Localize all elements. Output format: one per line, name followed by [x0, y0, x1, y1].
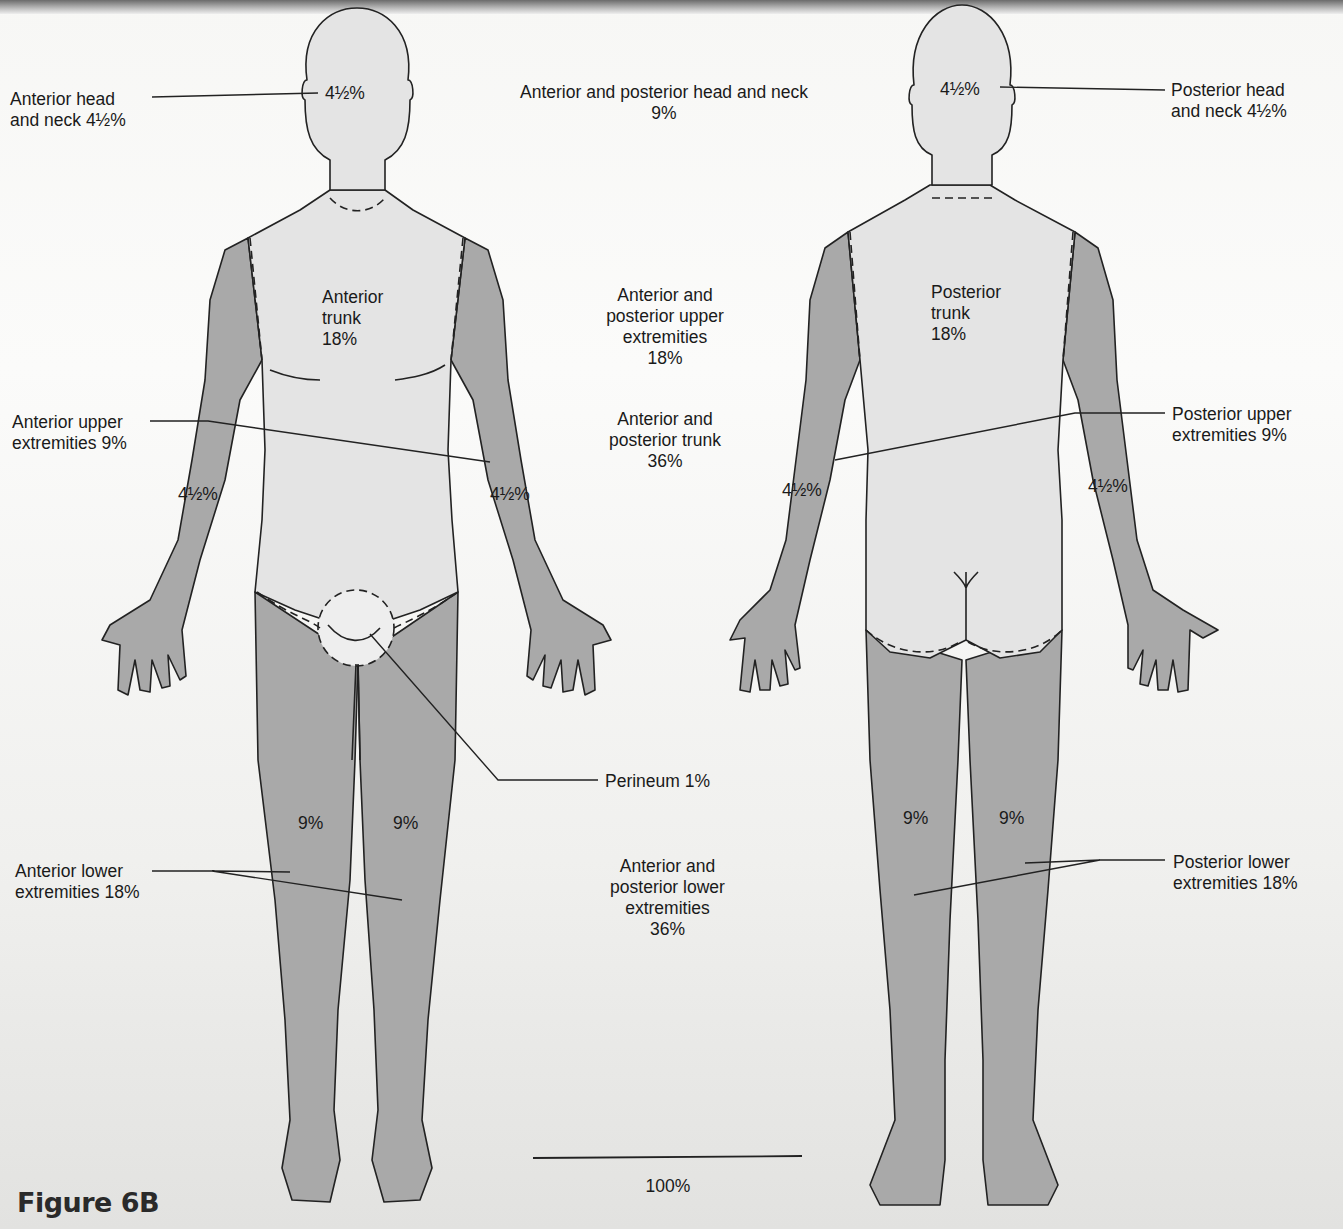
summary-trunk: Anterior and posterior trunk 36%	[585, 409, 745, 472]
anterior-right-leg	[255, 592, 358, 1202]
posterior-right-leg	[866, 630, 962, 1205]
summary-upper-line-2: posterior upper	[585, 306, 745, 327]
summary-perineum: Perineum 1%	[605, 771, 710, 792]
anterior-right-arm	[102, 238, 262, 695]
posterior-right-arm	[730, 232, 860, 692]
anterior-right-leg-value: 9%	[298, 813, 323, 834]
posterior-trunk-line-3: 18%	[931, 324, 1001, 345]
summary-upper-line-1: Anterior and	[585, 285, 745, 306]
posterior-trunk	[848, 185, 1075, 658]
callout-posterior-head-line-1: Posterior head	[1171, 80, 1287, 101]
posterior-trunk-line-1: Posterior	[931, 282, 1001, 303]
callout-posterior-lower-line-2: extremities 18%	[1173, 873, 1298, 894]
summary-head-neck-line-2: 9%	[493, 103, 835, 124]
callout-posterior-upper-line-2: extremities 9%	[1172, 425, 1292, 446]
callout-anterior-head-line-2: and neck 4½%	[10, 110, 126, 131]
posterior-right-leg-value: 9%	[903, 808, 928, 829]
summary-lower-line-4: 36%	[585, 919, 750, 940]
posterior-left-leg-value: 9%	[999, 808, 1024, 829]
callout-posterior-lower: Posterior lower extremities 18%	[1173, 852, 1298, 894]
anterior-right-arm-value: 4½%	[178, 484, 218, 505]
anterior-figure	[102, 8, 611, 1202]
anterior-trunk-line-2: trunk	[322, 308, 432, 329]
summary-trunk-line-3: 36%	[585, 451, 745, 472]
callout-anterior-lower-line-2: extremities 18%	[15, 882, 140, 903]
callout-anterior-lower: Anterior lower extremities 18%	[15, 861, 140, 903]
anterior-trunk-line-1: Anterior	[322, 287, 432, 308]
callout-anterior-upper: Anterior upper extremities 9%	[12, 412, 127, 454]
posterior-head-value: 4½%	[940, 79, 980, 100]
callout-posterior-upper: Posterior upper extremities 9%	[1172, 404, 1292, 446]
figure-title: Figure 6B	[17, 1187, 159, 1218]
anterior-left-leg-value: 9%	[393, 813, 418, 834]
posterior-left-leg	[966, 630, 1062, 1205]
summary-head-neck-line-1: Anterior and posterior head and neck	[493, 82, 835, 103]
summary-upper-line-3: extremities	[585, 327, 745, 348]
posterior-right-arm-value: 4½%	[782, 480, 822, 501]
summary-lower-line-2: posterior lower	[585, 877, 750, 898]
anterior-trunk-label: Anterior trunk 18%	[322, 287, 432, 350]
posterior-trunk-line-2: trunk	[931, 303, 1001, 324]
callout-anterior-upper-line-1: Anterior upper	[12, 412, 127, 433]
callout-anterior-head-line-1: Anterior head	[10, 89, 126, 110]
anterior-trunk	[248, 190, 465, 630]
summary-lower-line-1: Anterior and	[585, 856, 750, 877]
anterior-left-leg	[358, 592, 458, 1202]
posterior-left-arm-value: 4½%	[1088, 476, 1128, 497]
summary-trunk-line-1: Anterior and	[585, 409, 745, 430]
callout-posterior-upper-line-1: Posterior upper	[1172, 404, 1292, 425]
anterior-trunk-line-3: 18%	[322, 329, 432, 350]
summary-trunk-line-2: posterior trunk	[585, 430, 745, 451]
summary-upper-extremities: Anterior and posterior upper extremities…	[585, 285, 745, 369]
anterior-head-value: 4½%	[325, 83, 365, 104]
summary-upper-line-4: 18%	[585, 348, 745, 369]
callout-anterior-lower-line-1: Anterior lower	[15, 861, 140, 882]
posterior-trunk-label: Posterior trunk 18%	[931, 282, 1001, 345]
posterior-figure	[730, 5, 1218, 1205]
summary-lower-line-3: extremities	[585, 898, 750, 919]
posterior-left-arm	[1063, 232, 1218, 692]
anterior-left-arm-value: 4½%	[490, 484, 530, 505]
callout-anterior-upper-line-2: extremities 9%	[12, 433, 127, 454]
summary-total: 100%	[618, 1176, 718, 1197]
total-divider	[533, 1156, 802, 1158]
callout-posterior-lower-line-1: Posterior lower	[1173, 852, 1298, 873]
body-diagram	[0, 0, 1343, 1229]
callout-posterior-head-line-2: and neck 4½%	[1171, 101, 1287, 122]
anterior-perineum	[318, 590, 394, 666]
callout-posterior-head: Posterior head and neck 4½%	[1171, 80, 1287, 122]
summary-head-neck: Anterior and posterior head and neck 9%	[493, 82, 835, 124]
summary-lower-extremities: Anterior and posterior lower extremities…	[585, 856, 750, 940]
callout-anterior-head: Anterior head and neck 4½%	[10, 89, 126, 131]
